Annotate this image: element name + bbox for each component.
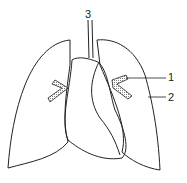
right-lung	[8, 40, 70, 168]
label-3: 3	[85, 9, 91, 20]
lungs-heart-diagram	[0, 0, 187, 183]
left-lung	[97, 40, 160, 170]
left-bronchus	[112, 75, 132, 99]
label-2: 2	[168, 92, 174, 103]
trachea	[88, 20, 93, 58]
label-1: 1	[168, 72, 174, 83]
right-bronchus	[48, 80, 68, 102]
